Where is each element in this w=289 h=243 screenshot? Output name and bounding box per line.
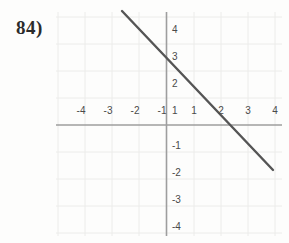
coordinate-plane-graph [0, 0, 289, 243]
x-tick-label--3: -3 [100, 106, 116, 116]
y-tick-label--4: -4 [172, 222, 188, 232]
y-tick-label-1: 1 [172, 106, 188, 116]
x-tick-label--4: -4 [73, 106, 89, 116]
x-tick-label-4: 4 [267, 106, 283, 116]
y-tick-label--1: -1 [172, 141, 188, 151]
x-tick-label-3: 3 [240, 106, 256, 116]
y-tick-label-4: 4 [172, 25, 188, 35]
y-tick-label--3: -3 [172, 195, 188, 205]
plotted-line-series [122, 11, 273, 170]
x-tick-label--2: -2 [127, 106, 143, 116]
y-tick-label--2: -2 [172, 168, 188, 178]
x-tick-label--1: -1 [154, 106, 170, 116]
figure-container: 84) -4 -3 -2 [0, 0, 289, 243]
y-tick-label-2: 2 [172, 79, 188, 89]
x-tick-label-2: 2 [213, 106, 229, 116]
y-tick-label-3: 3 [172, 52, 188, 62]
grid-lines [56, 12, 282, 236]
x-tick-label-1: 1 [186, 106, 202, 116]
